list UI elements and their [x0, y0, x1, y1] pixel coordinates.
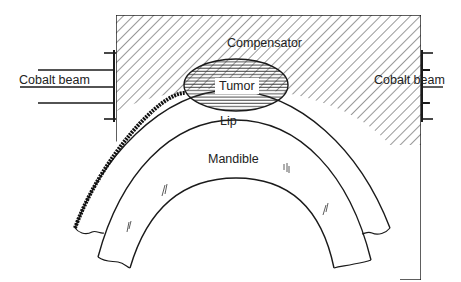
compensator-label: Compensator	[227, 36, 302, 50]
cobalt-beam-right-label: Cobalt beam	[374, 73, 445, 87]
diagram-canvas: Compensator Tumor Lip Mandible Cobalt be…	[0, 0, 461, 282]
mandible-label: Mandible	[208, 152, 259, 166]
lip-label: Lip	[220, 114, 237, 128]
tumor-label: Tumor	[219, 79, 255, 93]
cobalt-beam-left-label: Cobalt beam	[19, 73, 90, 87]
